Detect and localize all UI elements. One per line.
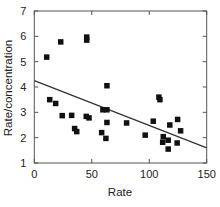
x-tick-labels: 050100150 — [31, 168, 216, 180]
y-tick-label: 3 — [20, 106, 26, 118]
y-tick-labels: 1234567 — [20, 5, 26, 169]
data-point-square — [104, 120, 110, 126]
data-point-square — [104, 83, 110, 89]
data-point-square — [165, 137, 171, 143]
x-axis-title: Rate — [108, 186, 132, 198]
x-tick-label: 50 — [86, 168, 98, 180]
y-axis-title: Rate/concentration — [2, 40, 14, 137]
plot-border — [34, 11, 206, 163]
data-point-square — [69, 113, 75, 119]
data-point-square — [99, 130, 105, 136]
data-point-square — [174, 140, 180, 146]
y-tick-label: 6 — [20, 30, 26, 42]
y-tick-label: 2 — [20, 132, 26, 144]
y-tick-label: 5 — [20, 56, 26, 68]
data-point-square — [142, 132, 148, 138]
data-point-square — [104, 107, 110, 113]
data-point-square — [74, 129, 80, 135]
data-point-square — [161, 134, 167, 140]
axis-ticks — [34, 11, 206, 163]
y-tick-label: 4 — [20, 81, 26, 93]
data-point-square — [59, 113, 65, 119]
data-point-square — [86, 115, 92, 121]
data-point-square — [175, 117, 181, 123]
data-point-square — [84, 34, 90, 40]
x-tick-label: 100 — [140, 168, 158, 180]
data-point-square — [160, 139, 166, 145]
data-point-square — [157, 97, 163, 103]
data-point-square — [44, 54, 50, 60]
y-tick-label: 1 — [20, 157, 26, 169]
data-point-square — [165, 146, 171, 152]
plot-frame — [34, 11, 206, 163]
data-point-square — [178, 128, 184, 134]
data-point-square — [47, 97, 53, 103]
data-point-square — [58, 39, 64, 45]
x-tick-label: 150 — [198, 168, 216, 180]
data-point-square — [151, 118, 157, 124]
x-tick-label: 0 — [31, 168, 37, 180]
data-point-square — [167, 122, 173, 128]
data-point-square — [103, 136, 109, 142]
data-point-square — [124, 120, 129, 126]
scatter-chart: 1234567 050100150 Rate Rate/concentratio… — [0, 0, 220, 207]
y-tick-label: 7 — [20, 5, 26, 17]
data-point-square — [53, 101, 59, 107]
